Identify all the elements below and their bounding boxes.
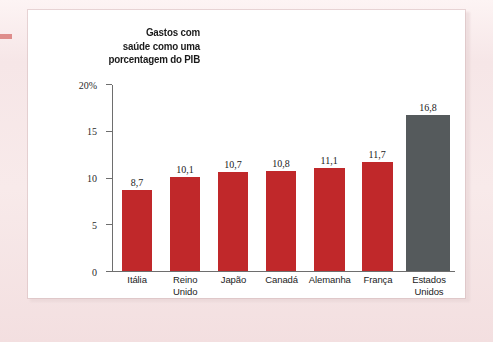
chart-title-line-3: porcentagem do PIB: [51, 53, 200, 67]
bar-slot: 8,7: [113, 85, 161, 271]
category-label-line: Alemanha: [306, 274, 354, 286]
bar-value-label: 16,8: [419, 102, 437, 113]
x-axis-category-label: Alemanha: [306, 274, 354, 298]
category-label-line: França: [354, 274, 402, 286]
category-label-line: Itália: [113, 274, 161, 286]
chart-title: Gastos com saúde como uma porcentagem do…: [51, 26, 200, 67]
bar: 11,1: [314, 168, 345, 271]
bar: 10,7: [218, 172, 249, 272]
bar: 11,7: [362, 162, 393, 271]
bar-slot: 11,1: [305, 85, 353, 271]
bar-slot: 10,1: [161, 85, 209, 271]
x-axis: [112, 271, 455, 272]
bar-value-label: 11,1: [321, 155, 338, 166]
x-axis-category-label: EstadosUnidos: [402, 274, 456, 298]
category-label-line: Unidos: [402, 286, 456, 298]
x-axis-category-label: Itália: [113, 274, 161, 298]
page-edge-mark: [0, 34, 12, 39]
category-label-line: Unido: [161, 286, 209, 298]
bar: 10,1: [170, 177, 201, 271]
y-axis-tick: 15: [106, 131, 112, 132]
category-label-line: Estados: [402, 274, 456, 286]
category-label-line: Reino: [161, 274, 209, 286]
bar-value-label: 10,1: [176, 164, 194, 175]
x-axis-category-label: França: [354, 274, 402, 298]
bar-slot: 10,8: [257, 85, 305, 271]
category-label-line: Japão: [209, 274, 257, 286]
bar-slot: 11,7: [353, 85, 401, 271]
x-axis-category-labels: ItáliaReinoUnidoJapãoCanadáAlemanhaFranç…: [113, 274, 456, 298]
y-axis-tick: 5: [106, 224, 112, 225]
page-background: Gastos com saúde como uma porcentagem do…: [0, 0, 493, 342]
y-axis-tick: 20%: [106, 84, 112, 85]
y-axis-tick: 10: [106, 178, 112, 179]
bar-value-label: 11,7: [369, 149, 386, 160]
bar-slot: 10,7: [209, 85, 257, 271]
y-axis-tick-label: 10: [87, 173, 97, 184]
y-axis-tick-label: 0: [92, 266, 97, 277]
bar-series: 8,710,110,710,811,111,716,8: [113, 85, 455, 271]
bar: 16,8: [406, 115, 450, 271]
y-axis-tick-label: 20%: [79, 79, 97, 90]
x-axis-category-label: Japão: [209, 274, 257, 298]
category-label-line: Canadá: [258, 274, 306, 286]
chart-title-line-2: saúde como uma: [51, 40, 200, 54]
chart-title-line-1: Gastos com: [51, 26, 200, 40]
y-axis-tick: 0: [106, 271, 112, 272]
bar-value-label: 10,7: [224, 159, 242, 170]
x-axis-category-label: ReinoUnido: [161, 274, 209, 298]
chart-panel: Gastos com saúde como uma porcentagem do…: [28, 10, 465, 298]
bar-value-label: 10,8: [272, 158, 290, 169]
y-axis-tick-label: 15: [87, 126, 97, 137]
bar-slot: 16,8: [401, 85, 455, 271]
plot-area: 05101520% 8,710,110,710,811,111,716,8: [112, 85, 455, 272]
bar: 10,8: [266, 171, 297, 271]
bar-value-label: 8,7: [131, 177, 144, 188]
y-axis-tick-label: 5: [92, 219, 97, 230]
bar: 8,7: [122, 190, 153, 271]
x-axis-category-label: Canadá: [258, 274, 306, 298]
